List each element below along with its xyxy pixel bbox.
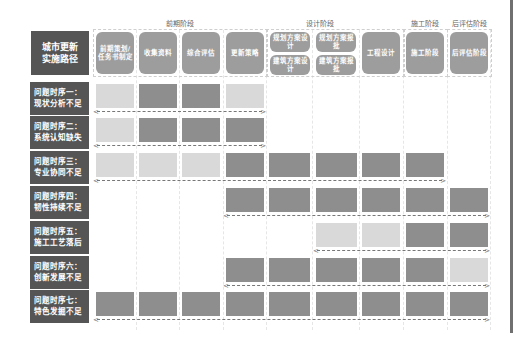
stage-card: 工程设计 — [362, 32, 400, 74]
arrow-line — [227, 215, 486, 216]
row-label: 问题时序四：韧性持续不足 — [30, 186, 89, 219]
arrow-right-icon: > — [260, 143, 266, 149]
phase-label-pre: 前期阶段 — [140, 18, 220, 28]
range-arrow: <> — [94, 143, 265, 149]
cell-dark — [226, 292, 264, 316]
row-label: 问题时序二：系统认知缺失 — [30, 116, 89, 149]
cell-dark — [406, 153, 444, 177]
arrow-right-icon: > — [484, 213, 490, 219]
cell-dark — [316, 188, 357, 212]
stage-card: 建筑方案设计 — [270, 55, 310, 75]
cell-dark — [450, 188, 488, 212]
cell-dark — [316, 292, 357, 316]
stage-card: 前期策划/任务书制定 — [96, 32, 134, 74]
cell-dark — [269, 292, 310, 316]
row-label: 问题时序三：专业协同不足 — [30, 151, 89, 184]
stage-card: 规划方案设计 — [270, 32, 310, 52]
cell-dark — [362, 292, 400, 316]
cell-dark — [450, 223, 488, 247]
cell-dark — [362, 188, 400, 212]
arrow-left-icon: < — [93, 109, 99, 115]
cell-dark — [139, 292, 177, 316]
row-label: 问题时序六：创新发展不足 — [30, 256, 89, 289]
cell-dark — [139, 118, 177, 142]
cell-dark — [362, 153, 400, 177]
arrow-left-icon: < — [93, 143, 99, 149]
cell-light — [316, 223, 357, 247]
arrow-left-icon: < — [223, 283, 229, 289]
range-arrow: <> — [224, 213, 489, 219]
stage-card: 收集资料 — [139, 32, 177, 74]
cell-dark — [226, 188, 264, 212]
arrow-line — [97, 111, 262, 112]
cell-dark — [406, 292, 444, 316]
cell-dark — [406, 258, 444, 282]
arrow-line — [317, 250, 486, 251]
arrow-line — [227, 285, 486, 286]
cell-dark — [226, 153, 264, 177]
cell-light — [450, 258, 488, 282]
range-arrow: <> — [94, 317, 489, 323]
cell-dark — [316, 258, 357, 282]
cell-light — [226, 84, 264, 108]
cell-dark — [182, 292, 220, 316]
cell-dark — [139, 84, 177, 108]
cell-dark — [182, 118, 220, 142]
arrow-left-icon: < — [93, 317, 99, 323]
range-arrow: <> — [224, 283, 489, 289]
cell-light — [96, 118, 134, 142]
phase-label-post: 后评估阶段 — [444, 18, 494, 28]
arrow-right-icon: > — [260, 109, 266, 115]
arrow-right-icon: > — [484, 248, 490, 254]
page-edge-bar — [510, 0, 513, 333]
cell-dark — [362, 258, 400, 282]
arrow-left-icon: < — [313, 248, 319, 254]
row-label: 问题时序五：施工工艺落后 — [30, 221, 89, 254]
cell-light — [139, 153, 177, 177]
arrow-line — [97, 180, 442, 181]
cell-light — [182, 153, 220, 177]
cell-dark — [226, 258, 264, 282]
arrow-right-icon: > — [440, 178, 446, 184]
cell-dark — [450, 292, 488, 316]
stage-card: 更新策略 — [226, 32, 264, 74]
stage-card: 综合评估 — [182, 32, 220, 74]
row-label: 问题时序一：现状分析不足 — [30, 82, 89, 115]
arrow-line — [97, 319, 486, 320]
cell-dark — [226, 118, 264, 142]
cell-dark — [406, 188, 444, 212]
stage-card: 施工阶段 — [406, 32, 444, 74]
cell-dark — [96, 292, 134, 316]
cell-light — [96, 153, 134, 177]
stage-card: 规划方案报批 — [316, 32, 356, 52]
range-arrow: <> — [94, 109, 265, 115]
row-label: 问题时序七：特色发掘不足 — [30, 290, 89, 323]
stage-card: 后评估阶段 — [450, 32, 488, 74]
cell-light — [362, 223, 400, 247]
arrow-left-icon: < — [93, 178, 99, 184]
phase-label-construction: 施工阶段 — [402, 18, 448, 28]
cell-dark — [182, 84, 220, 108]
diagram-title: 城市更新实施路径 — [31, 31, 89, 75]
cell-dark — [406, 223, 444, 247]
cell-dark — [269, 153, 310, 177]
cell-dark — [316, 153, 357, 177]
range-arrow: <> — [94, 178, 445, 184]
cell-dark — [269, 188, 310, 212]
arrow-line — [97, 145, 262, 146]
cell-dark — [269, 258, 310, 282]
arrow-left-icon: < — [223, 213, 229, 219]
range-arrow: <> — [314, 248, 489, 254]
cell-light — [96, 84, 134, 108]
arrow-right-icon: > — [484, 283, 490, 289]
phase-label-design: 设计阶段 — [290, 18, 350, 28]
stage-card: 建筑方案报批 — [316, 55, 356, 75]
arrow-right-icon: > — [484, 317, 490, 323]
